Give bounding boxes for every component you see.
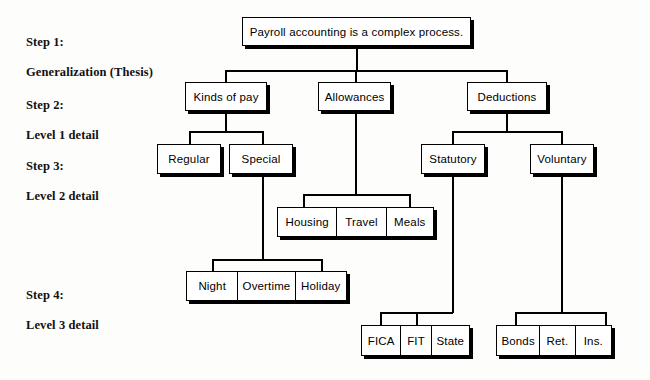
insurance-label: Ins.: [584, 335, 603, 347]
box-fica[interactable]: FICA: [362, 326, 400, 355]
box-retirement[interactable]: Ret.: [539, 326, 574, 355]
connector-voluntary-drop: [561, 173, 563, 313]
group-special-pay-items: Night Overtime Holiday: [186, 271, 347, 301]
box-kinds-of-pay[interactable]: Kinds of pay: [185, 82, 267, 111]
connector-to-statutory: [452, 131, 454, 145]
box-housing[interactable]: Housing: [278, 208, 336, 236]
step-1-line1: Step 1:: [26, 35, 64, 49]
box-meals[interactable]: Meals: [386, 208, 433, 236]
night-label: Night: [198, 280, 226, 292]
connector-to-housing: [303, 194, 305, 208]
connector-statutory-drop: [452, 173, 454, 313]
regular-label: Regular: [168, 153, 209, 165]
housing-label: Housing: [285, 216, 328, 228]
box-night[interactable]: Night: [187, 272, 237, 300]
connector-to-fit: [416, 312, 418, 326]
box-statutory[interactable]: Statutory: [421, 144, 485, 174]
step-1-line2: Generalization (Thesis): [26, 65, 153, 79]
box-allowances[interactable]: Allowances: [318, 82, 391, 111]
fica-label: FICA: [368, 335, 395, 347]
step-3-line1: Step 3:: [26, 159, 64, 173]
connector-to-regular: [189, 131, 191, 145]
box-overtime[interactable]: Overtime: [237, 272, 294, 300]
state-label: State: [437, 335, 465, 347]
box-voluntary[interactable]: Voluntary: [530, 144, 594, 174]
connector-to-bonds: [515, 312, 517, 326]
connector-special-spine: [212, 259, 322, 261]
allowances-label: Allowances: [325, 91, 385, 103]
special-label: Special: [242, 153, 281, 165]
box-regular[interactable]: Regular: [157, 144, 221, 174]
connector-kinds-spine: [189, 131, 263, 133]
connector-thesis-drop: [356, 46, 358, 71]
connector-voluntary-spine: [515, 312, 607, 314]
voluntary-label: Voluntary: [537, 153, 586, 165]
meals-label: Meals: [394, 216, 425, 228]
diagram-canvas: Step 1: Generalization (Thesis) Step 2: …: [0, 0, 650, 380]
connector-to-special: [262, 131, 264, 145]
box-bonds[interactable]: Bonds: [497, 326, 539, 355]
step-label-1: Step 1: Generalization (Thesis): [26, 20, 153, 80]
statutory-label: Statutory: [429, 153, 476, 165]
connector-allowances-drop: [355, 110, 357, 195]
retirement-label: Ret.: [547, 335, 569, 347]
step-label-4: Step 4: Level 3 detail: [26, 273, 99, 333]
connector-to-voluntary: [561, 131, 563, 145]
step-label-2: Step 2: Level 1 detail: [26, 83, 99, 143]
group-allowance-items: Housing Travel Meals: [277, 207, 434, 237]
kinds-of-pay-label: Kinds of pay: [193, 91, 258, 103]
connector-allowances-spine: [303, 194, 410, 196]
holiday-label: Holiday: [301, 280, 340, 292]
connector-to-meals: [409, 194, 411, 208]
connector-special-drop: [262, 173, 264, 260]
overtime-label: Overtime: [243, 280, 291, 292]
fit-label: FIT: [407, 335, 425, 347]
connector-deductions-spine: [452, 131, 562, 133]
step-2-line1: Step 2:: [26, 98, 64, 112]
connector-to-fica: [380, 312, 382, 326]
bonds-label: Bonds: [501, 335, 534, 347]
deductions-label: Deductions: [477, 91, 536, 103]
thesis-box[interactable]: Payroll accounting is a complex process.: [242, 17, 471, 46]
connector-kinds-drop: [225, 110, 227, 132]
thesis-label: Payroll accounting is a complex process.: [250, 26, 464, 38]
step-label-3: Step 3: Level 2 detail: [26, 144, 99, 204]
connector-level1-spine: [225, 70, 507, 72]
box-state[interactable]: State: [431, 326, 469, 355]
box-special[interactable]: Special: [229, 144, 293, 174]
step-4-line2: Level 3 detail: [26, 318, 99, 332]
group-voluntary-items: Bonds Ret. Ins.: [496, 325, 612, 356]
group-statutory-items: FICA FIT State: [361, 325, 470, 356]
step-4-line1: Step 4:: [26, 288, 64, 302]
step-2-line2: Level 1 detail: [26, 128, 99, 142]
step-3-line2: Level 2 detail: [26, 189, 99, 203]
connector-deductions-drop: [506, 110, 508, 132]
box-holiday[interactable]: Holiday: [295, 272, 346, 300]
box-deductions[interactable]: Deductions: [467, 82, 547, 111]
box-fit[interactable]: FIT: [400, 326, 430, 355]
box-insurance[interactable]: Ins.: [575, 326, 611, 355]
travel-label: Travel: [345, 216, 377, 228]
connector-to-insurance: [605, 312, 607, 326]
box-travel[interactable]: Travel: [336, 208, 385, 236]
